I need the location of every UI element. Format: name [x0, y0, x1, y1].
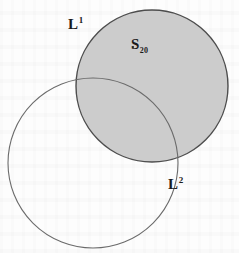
label-L2: L2	[168, 176, 183, 192]
label-L1: L1	[68, 16, 83, 32]
label-L1-base: L	[68, 16, 78, 32]
label-S20-subscript: 20	[140, 46, 148, 55]
label-L2-superscript: 2	[179, 175, 184, 185]
venn-diagram-figure: L1 S20 L2	[0, 0, 239, 253]
label-L1-superscript: 1	[79, 15, 84, 25]
label-S20-base: S	[131, 36, 140, 52]
label-S20: S20	[131, 36, 148, 52]
label-L2-base: L	[168, 176, 178, 192]
venn-diagram-canvas	[0, 0, 239, 253]
shaded-circle-L1	[76, 10, 228, 162]
